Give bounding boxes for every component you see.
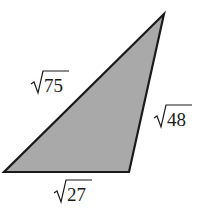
side-label-sqrt75: 75 <box>31 71 69 96</box>
triangle-shape <box>4 14 164 172</box>
triangle-diagram: 75 48 27 <box>0 0 203 210</box>
radicand-27: 27 <box>67 184 86 205</box>
side-label-sqrt48: 48 <box>154 105 192 130</box>
side-label-sqrt27: 27 <box>54 180 92 205</box>
radicand-75: 75 <box>44 75 63 96</box>
radicand-48: 48 <box>167 109 186 130</box>
